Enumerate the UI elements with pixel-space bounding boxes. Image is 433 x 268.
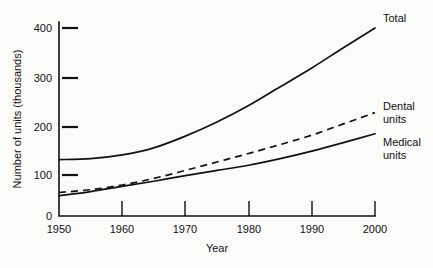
series-label-medical-line1: Medical <box>383 136 421 148</box>
series-label-dental-line2: units <box>383 113 407 125</box>
series-line-dental-units <box>59 113 375 193</box>
y-tick-label-400: 400 <box>34 22 52 34</box>
x-tick-label-2000: 2000 <box>363 223 387 235</box>
series-label-dental-line1: Dental <box>383 100 415 112</box>
x-axis-ticks <box>122 201 375 216</box>
y-axis-title: Number of units (thousands) <box>11 50 23 189</box>
chart-container: 400 300 200 100 0 1950 1960 1970 1980 19… <box>0 0 433 268</box>
axis-spine <box>59 22 375 216</box>
y-tick-label-100: 100 <box>34 169 52 181</box>
y-tick-labels: 400 300 200 100 0 <box>34 22 52 222</box>
y-axis-ticks <box>62 28 78 175</box>
x-tick-label-1970: 1970 <box>173 223 197 235</box>
x-tick-label-1990: 1990 <box>300 223 324 235</box>
series-line-total <box>59 28 375 160</box>
x-tick-label-1950: 1950 <box>47 223 71 235</box>
x-tick-label-1960: 1960 <box>110 223 134 235</box>
series-label-medical-line2: units <box>383 149 407 161</box>
y-tick-label-200: 200 <box>34 121 52 133</box>
x-axis-title: Year <box>206 242 229 254</box>
y-tick-label-300: 300 <box>34 72 52 84</box>
y-tick-label-0: 0 <box>46 210 52 222</box>
line-chart: 400 300 200 100 0 1950 1960 1970 1980 19… <box>0 0 433 268</box>
x-tick-labels: 1950 1960 1970 1980 1990 2000 <box>47 223 387 235</box>
series-label-total: Total <box>383 12 406 24</box>
x-tick-label-1980: 1980 <box>237 223 261 235</box>
series-line-medical-units <box>59 134 375 196</box>
